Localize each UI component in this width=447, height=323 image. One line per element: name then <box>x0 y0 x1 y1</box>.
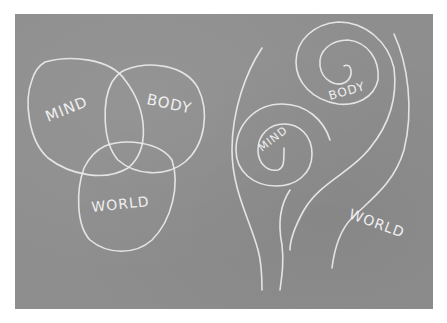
chalk-drawings: MIND BODY WORLD BODY MIND WORLD <box>0 0 447 323</box>
mind-spiral <box>236 104 330 186</box>
world-outline-inner-left <box>280 190 290 290</box>
world-outline-right-inner <box>290 148 370 250</box>
venn-label-mind: MIND <box>43 92 91 125</box>
spiral-diagram: BODY MIND WORLD <box>232 22 409 290</box>
spiral-label-mind: MIND <box>256 124 290 155</box>
world-outline-left <box>232 48 262 290</box>
venn-label-body: BODY <box>145 90 193 117</box>
venn-circle-body <box>105 65 204 173</box>
venn-diagram: MIND BODY WORLD <box>28 59 204 252</box>
venn-label-world: WORLD <box>91 193 151 215</box>
spiral-label-world: WORLD <box>347 206 407 241</box>
